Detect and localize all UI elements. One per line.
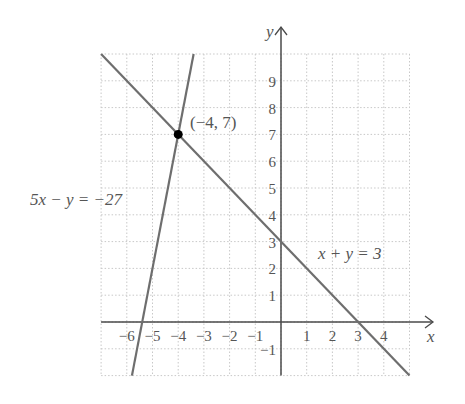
- annotations: y x 5x − y = −27 x + y = 3 (−4, 7): [30, 22, 435, 346]
- tick-labels: −6−5−4−3−2−11234−1123456789: [119, 74, 388, 358]
- x-tick-label: 4: [380, 328, 388, 344]
- x-tick-label: 3: [354, 328, 362, 344]
- y-tick-label: 9: [269, 74, 277, 90]
- x-tick-label: −6: [119, 328, 135, 344]
- x-tick-label: −2: [222, 328, 238, 344]
- intersection-point-label: (−4, 7): [190, 113, 236, 132]
- y-tick-label: −1: [260, 342, 276, 358]
- linear-system-graph: −6−5−4−3−2−11234−1123456789 y x 5x − y =…: [0, 0, 465, 404]
- line1-equation-label: 5x − y = −27: [30, 190, 124, 209]
- y-tick-label: 2: [269, 261, 277, 277]
- y-tick-label: 5: [269, 181, 277, 197]
- intersection-point: [174, 130, 183, 139]
- x-tick-label: 2: [329, 328, 337, 344]
- y-tick-label: 6: [269, 154, 277, 170]
- y-tick-label: 1: [269, 288, 277, 304]
- x-tick-label: −5: [145, 328, 161, 344]
- points: [174, 130, 183, 139]
- x-axis-label: x: [426, 327, 435, 346]
- axes: [101, 27, 433, 376]
- x-tick-label: −4: [170, 328, 186, 344]
- y-tick-label: 3: [269, 235, 277, 251]
- y-tick-label: 8: [269, 101, 277, 117]
- y-axis-label: y: [264, 22, 274, 41]
- x-tick-label: −3: [196, 328, 212, 344]
- line2-equation-label: x + y = 3: [317, 244, 382, 263]
- x-tick-label: 1: [303, 328, 311, 344]
- y-tick-label: 4: [269, 208, 277, 224]
- y-tick-label: 7: [269, 127, 277, 143]
